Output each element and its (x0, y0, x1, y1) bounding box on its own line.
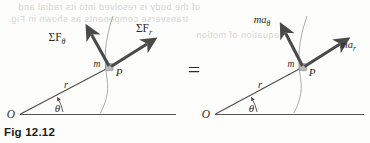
right-angle-label: θ (249, 102, 255, 114)
left-vector-radial-label: ΣFr (136, 22, 153, 37)
left-diagram: ΣFθ ΣFr m P r θ O (7, 16, 176, 120)
right-vector-radial (305, 44, 341, 67)
left-vector-transverse-label: ΣFθ (48, 31, 65, 46)
right-mass-label: m (288, 59, 295, 69)
left-origin-label: O (7, 108, 16, 120)
left-radius-line (21, 67, 111, 114)
right-diagram: maθ mar m P r θ O (202, 14, 364, 120)
right-vector-transverse-label: maθ (254, 14, 271, 28)
left-point-label: P (115, 66, 123, 78)
right-radius-line (216, 67, 304, 114)
left-mass-label: m (94, 59, 101, 69)
left-vector-radial (111, 44, 147, 67)
right-vector-radial-label: mar (340, 39, 356, 53)
left-angle-label: θ (55, 102, 61, 114)
right-origin-label: O (202, 108, 211, 120)
figure-caption: Fig 12.12 (4, 126, 55, 138)
equals-sign: = (188, 57, 200, 82)
right-point-label: P (308, 66, 316, 78)
figure-canvas: ΣFθ ΣFr m P r θ O = (0, 0, 370, 143)
figure-12-12: of the body is resolved into its radial … (0, 0, 370, 143)
